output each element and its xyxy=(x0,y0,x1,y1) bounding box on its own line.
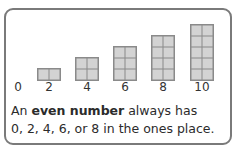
label-8: 8 xyxy=(151,80,175,94)
unit-cell xyxy=(125,69,136,80)
unit-cell xyxy=(202,58,213,69)
unit-cell xyxy=(114,47,125,58)
unit-cell xyxy=(163,58,174,69)
block-stack-4 xyxy=(75,57,99,81)
unit-cell xyxy=(152,47,163,58)
unit-cell xyxy=(163,47,174,58)
unit-cell xyxy=(49,69,60,80)
caption-prefix: An xyxy=(11,103,31,118)
unit-cell xyxy=(202,25,213,36)
unit-cell xyxy=(191,47,202,58)
unit-cell xyxy=(114,69,125,80)
label-10: 10 xyxy=(190,80,214,94)
unit-cell xyxy=(87,69,98,80)
unit-cell xyxy=(152,36,163,47)
unit-cell xyxy=(76,58,87,69)
unit-cell xyxy=(152,58,163,69)
block-stack-10 xyxy=(190,24,214,81)
unit-cell xyxy=(76,69,87,80)
block-stack-6 xyxy=(113,46,137,81)
unit-cell xyxy=(163,69,174,80)
caption-line2: 0, 2, 4, 6, or 8 in the ones place. xyxy=(11,121,215,136)
unit-cell xyxy=(152,69,163,80)
label-4: 4 xyxy=(75,80,99,94)
unit-cell xyxy=(191,69,202,80)
unit-cell xyxy=(87,58,98,69)
definition-caption: An even number always has 0, 2, 4, 6, or… xyxy=(11,102,233,138)
label-6: 6 xyxy=(113,80,137,94)
unit-cell xyxy=(202,47,213,58)
block-stack-8 xyxy=(151,35,175,81)
unit-cell xyxy=(114,58,125,69)
unit-cell xyxy=(191,58,202,69)
unit-cell xyxy=(125,58,136,69)
unit-cell xyxy=(38,69,49,80)
caption-term: even number xyxy=(31,103,124,118)
label-0: 0 xyxy=(6,80,30,94)
unit-cell xyxy=(191,36,202,47)
caption-suffix: always has xyxy=(124,103,197,118)
unit-cell xyxy=(163,36,174,47)
unit-cell xyxy=(202,69,213,80)
unit-cell xyxy=(191,25,202,36)
label-2: 2 xyxy=(37,80,61,94)
unit-cell xyxy=(202,36,213,47)
unit-cell xyxy=(125,47,136,58)
